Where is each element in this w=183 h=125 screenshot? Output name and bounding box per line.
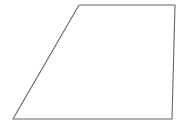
- trapezoid-shape: [13, 5, 175, 119]
- geometry-figure-canvas: [0, 0, 183, 125]
- figure-svg: [0, 0, 183, 125]
